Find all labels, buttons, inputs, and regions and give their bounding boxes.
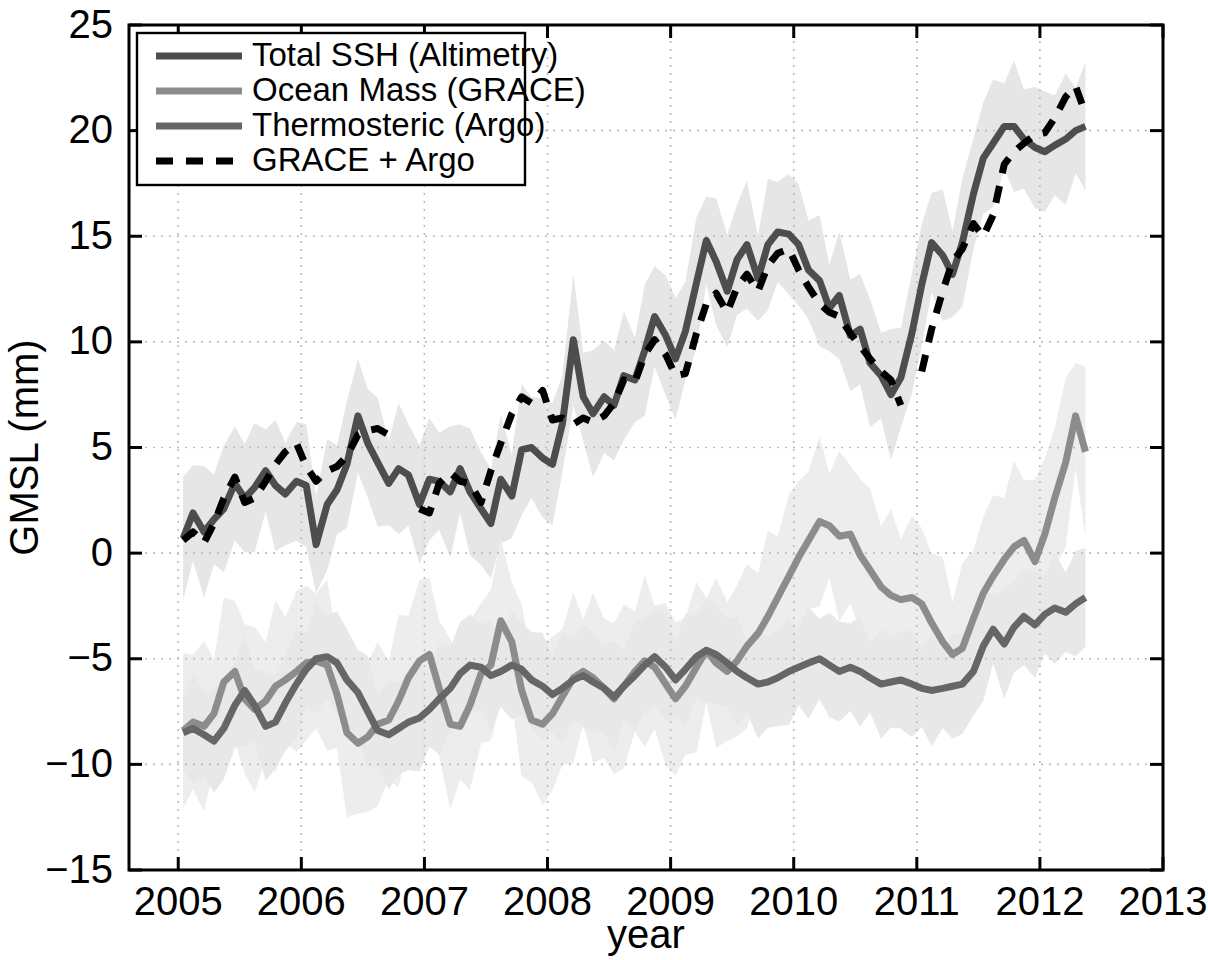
y-axis-label: GMSL (mm) xyxy=(2,339,46,555)
legend-label-thermosteric: Thermosteric (Argo) xyxy=(252,106,545,143)
chart-legend: Total SSH (Altimetry)Ocean Mass (GRACE)T… xyxy=(137,33,586,185)
xtick-label: 2007 xyxy=(380,879,469,923)
ytick-label: 0 xyxy=(91,530,113,574)
ytick-label: −5 xyxy=(67,635,113,679)
chart-figure: −15−10−505101520252005200620072008200920… xyxy=(0,0,1208,960)
ytick-label: 25 xyxy=(69,2,114,46)
xtick-label: 2006 xyxy=(257,879,346,923)
ytick-label: 5 xyxy=(91,424,113,468)
xtick-label: 2011 xyxy=(874,879,960,923)
xtick-label: 2010 xyxy=(749,879,838,923)
xtick-label: 2008 xyxy=(503,879,592,923)
ytick-label: −10 xyxy=(45,741,113,785)
ytick-label: 15 xyxy=(69,213,114,257)
ytick-label: −15 xyxy=(45,847,113,891)
legend-label-ocean_mass: Ocean Mass (GRACE) xyxy=(252,71,586,108)
ytick-label: 20 xyxy=(69,107,114,151)
xtick-label: 2012 xyxy=(995,879,1084,923)
x-axis-label: year xyxy=(607,912,685,956)
legend-label-grace_plus_argo: GRACE + Argo xyxy=(252,141,475,178)
gmsl-line-chart: −15−10−505101520252005200620072008200920… xyxy=(0,0,1208,960)
legend-label-total_ssh: Total SSH (Altimetry) xyxy=(252,36,558,73)
xtick-label: 2013 xyxy=(1119,879,1208,923)
ytick-label: 10 xyxy=(69,318,114,362)
uncertainty-band-ocean_mass xyxy=(183,363,1085,817)
xtick-label: 2005 xyxy=(134,879,223,923)
